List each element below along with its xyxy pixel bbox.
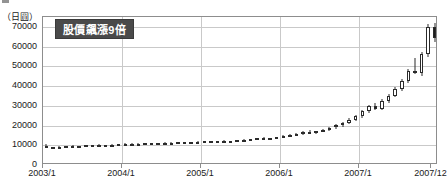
candlestick-body-up xyxy=(400,81,403,89)
candlestick-body-up xyxy=(235,140,238,142)
candlestick xyxy=(104,17,107,165)
candlestick xyxy=(249,17,252,165)
candlestick-body-up xyxy=(328,128,331,130)
candlestick-body-up xyxy=(420,54,423,73)
candlestick-body-down xyxy=(433,27,436,37)
candlestick-body-up xyxy=(77,146,80,148)
candlestick xyxy=(361,17,364,165)
y-axis-tick-labels: 010000200003000040000500006000070000 xyxy=(0,0,40,183)
y-axis-tick-label: 30000 xyxy=(12,100,37,110)
candlestick xyxy=(229,17,232,165)
candlestick-body-down xyxy=(150,143,153,145)
candlestick xyxy=(203,17,206,165)
candlestick-body-up xyxy=(189,142,192,144)
candlestick xyxy=(216,17,219,165)
candlestick-body-up xyxy=(156,143,159,145)
y-axis-tick-label: 10000 xyxy=(12,139,37,149)
candlestick xyxy=(163,17,166,165)
candlestick xyxy=(222,17,225,165)
candlestick-body-up xyxy=(334,125,337,127)
candlestick-body-up xyxy=(255,138,258,140)
candlestick xyxy=(367,17,370,165)
candlestick-body-up xyxy=(367,106,370,111)
candlestick xyxy=(380,17,383,165)
candlestick xyxy=(117,17,120,165)
candlestick-body-up xyxy=(295,134,298,136)
candlestick-body-up xyxy=(347,120,350,124)
candlestick xyxy=(176,17,179,165)
candlestick-body-up xyxy=(275,137,278,139)
candlestick-body-up xyxy=(393,89,396,96)
candlestick-body-up xyxy=(196,142,199,144)
candlestick xyxy=(275,17,278,165)
candlestick-body-up xyxy=(84,145,87,147)
candlestick xyxy=(393,17,396,165)
candlestick xyxy=(71,17,74,165)
candlestick xyxy=(124,17,127,165)
candlestick-body-up xyxy=(242,140,245,142)
candlestick-body-up xyxy=(380,101,383,109)
candlestick-body-up xyxy=(110,145,113,147)
candlestick xyxy=(334,17,337,165)
candlestick xyxy=(235,17,238,165)
candlestick-body-up xyxy=(229,141,232,143)
candlestick-body-up xyxy=(321,130,324,132)
candlestick xyxy=(255,17,258,165)
y-axis-tick-label: 40000 xyxy=(12,80,37,90)
candlestick xyxy=(183,17,186,165)
candlestick xyxy=(426,17,429,165)
candlestick xyxy=(433,17,436,165)
x-axis-tick-label: 2006/1 xyxy=(265,168,293,178)
candlestick xyxy=(282,17,285,165)
candlestick-body-up xyxy=(176,142,179,144)
candlestick xyxy=(91,17,94,165)
candlestick-body-up xyxy=(51,147,54,149)
candlestick xyxy=(407,17,410,165)
candlestick-body-down xyxy=(413,71,416,73)
candlestick-body-down xyxy=(183,142,186,144)
candlestick xyxy=(308,17,311,165)
candlestick-body-up xyxy=(216,141,219,143)
candlestick xyxy=(268,17,271,165)
candlestick-body-up xyxy=(64,146,67,148)
candlestick xyxy=(130,17,133,165)
candlestick xyxy=(288,17,291,165)
candlestick xyxy=(420,17,423,165)
candlestick xyxy=(150,17,153,165)
candlestick xyxy=(189,17,192,165)
candlestick-body-up xyxy=(117,144,120,146)
candlestick xyxy=(110,17,113,165)
y-axis-tick-label: 50000 xyxy=(12,60,37,70)
candlestick xyxy=(262,17,265,165)
candlestick-body-down xyxy=(374,106,377,109)
candlestick-body-up xyxy=(341,123,344,125)
candlestick-body-up xyxy=(361,111,364,116)
y-axis-tick-label: 20000 xyxy=(12,120,37,130)
candlestick-body-up xyxy=(354,116,357,120)
candlestick xyxy=(64,17,67,165)
candlestick-body-down xyxy=(45,146,48,148)
candlestick xyxy=(51,17,54,165)
annotation-callout: 股價飆漲9倍 xyxy=(55,19,134,39)
candlestick xyxy=(387,17,390,165)
candlestick xyxy=(209,17,212,165)
candlestick-body-down xyxy=(308,132,311,134)
candlestick xyxy=(321,17,324,165)
x-axis-tick-label: 2003/1 xyxy=(28,168,56,178)
candlestick xyxy=(242,17,245,165)
x-axis-tick-label: 2004/1 xyxy=(107,168,135,178)
candlestick-body-up xyxy=(249,139,252,141)
candlestick xyxy=(413,17,416,165)
candlestick-body-up xyxy=(426,27,429,54)
candlestick xyxy=(156,17,159,165)
candlestick-body-up xyxy=(137,144,140,146)
candlestick xyxy=(77,17,80,165)
candlestick-body-up xyxy=(301,132,304,134)
x-axis-tick-label: 2007/12 xyxy=(414,168,447,178)
candlestick-body-up xyxy=(407,71,410,80)
candlestick-body-up xyxy=(124,144,127,146)
candlestick xyxy=(170,17,173,165)
candlestick-body-up xyxy=(387,96,390,102)
candlestick xyxy=(84,17,87,165)
